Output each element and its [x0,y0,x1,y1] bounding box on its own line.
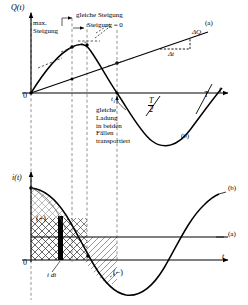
lower-curve-a-label: (a) [228,231,236,238]
delta-q-label: ΔQ [192,29,201,36]
T-label: T [204,91,208,99]
t1-subscript: 1 [113,99,115,104]
negative-area-hatch [87,237,117,260]
max-slope-label-line2: Steigung [33,28,58,35]
tangent-equal-slope [61,42,86,52]
delta-t-label: Δt [168,51,174,58]
lower-origin-label: 0 [23,259,27,267]
figure-container: Q(t) t 0 max. Steigung gleiche Steigung … [0,0,248,305]
half-T-denominator: 2 [148,106,154,114]
i-dt-label: i dt [47,272,56,279]
lower-x-axis-label: t [222,253,224,261]
figure-svg [0,0,248,305]
half-T-fraction: T 2 [148,97,154,114]
point-line-a-mid [71,78,74,81]
note-line-4: transportiert [96,138,130,146]
upper-curve-a-label: (a) [205,20,213,27]
t1-label: t1 [111,96,115,105]
point-t1-axis [116,92,119,95]
upper-marked-points [29,43,118,94]
lower-zero-crossing [86,254,90,258]
upper-line-a [31,32,208,93]
upper-origin-label: 0 [23,92,27,100]
upper-curve-b-label: (b) [181,133,189,140]
half-T-label: T 2 [148,96,154,114]
i-dt-strip [58,216,63,260]
lower-y-axis-label: i(t) [12,174,22,182]
positive-area-label: (+) [36,215,46,223]
equal-slope-label: gleiche Steigung [76,12,123,19]
negative-area-label: (−) [113,269,123,277]
zero-slope-label: Steigung = 0 [87,22,123,29]
lower-curve-b-label: (b) [228,185,236,192]
upper-x-axis-label: t [219,86,221,94]
point-origin [29,91,32,94]
leader-lower-b [219,192,226,194]
note-block: gleiche Ladung in beiden Fällen transpor… [96,107,130,146]
upper-y-axis-label: Q(t) [11,4,24,12]
point-zero-slope [85,43,88,46]
